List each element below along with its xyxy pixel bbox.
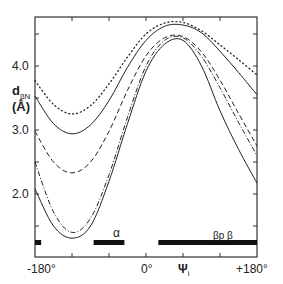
x-axis-subscript: i <box>188 269 190 278</box>
x-axis-symbol: Ψ <box>178 262 188 276</box>
conformation-bar-1 <box>158 240 257 245</box>
y-axis-unit: (Å) <box>12 101 30 113</box>
beta-label: βp β <box>213 230 233 242</box>
y-tick-label-2: 2.0 <box>12 188 29 200</box>
curve-solid-upper <box>35 24 257 134</box>
x-tick-label-right: +180° <box>236 263 268 275</box>
conformation-bar-0 <box>94 240 125 245</box>
axis-ticks <box>35 17 257 257</box>
x-tick-label-left: -180° <box>27 263 56 275</box>
curves <box>35 22 257 239</box>
plot-area <box>0 0 283 284</box>
plot-frame <box>35 17 257 257</box>
y-axis-symbol: d <box>12 83 20 98</box>
alpha-label: α <box>113 227 120 239</box>
curve-solid-lower <box>35 39 257 239</box>
x-axis-label: Ψi <box>178 263 190 280</box>
y-tick-label-4: 4.0 <box>12 60 29 72</box>
y-tick-label-3: 3.0 <box>12 124 29 136</box>
conformation-bar-2 <box>35 240 41 245</box>
curve-dash-dot <box>35 36 257 232</box>
x-tick-label-zero: 0° <box>141 263 152 275</box>
curve-dotted <box>35 22 257 114</box>
